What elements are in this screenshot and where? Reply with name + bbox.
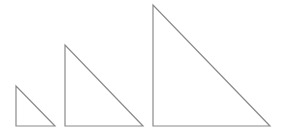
medium-triangle <box>65 45 143 126</box>
small-triangle <box>16 86 55 126</box>
triangles-diagram <box>0 0 281 138</box>
large-triangle <box>153 5 270 126</box>
